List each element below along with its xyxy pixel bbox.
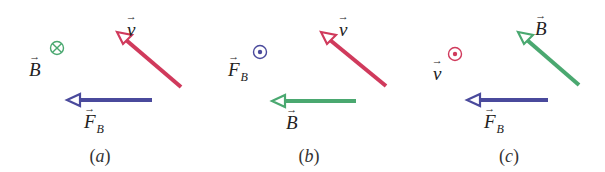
vector-arrow-icon: → (126, 11, 137, 22)
caption-letter: a (96, 146, 105, 166)
label-field-b: →B (286, 113, 298, 132)
caption-b: (b) (299, 147, 320, 165)
label-text: v (339, 19, 347, 40)
vector-arrow-icon: → (286, 104, 297, 115)
label-force-a: →FB (84, 112, 104, 135)
label-text: v (127, 19, 135, 40)
label-subscript: B (97, 122, 104, 136)
label-text: F (484, 111, 496, 132)
label-force-b: →FB (228, 60, 248, 83)
label-text: B (29, 59, 41, 80)
velocity-arrow (117, 32, 181, 87)
vector-arrow-icon: → (484, 103, 495, 114)
paren: ) (314, 146, 320, 166)
force-arrow (467, 94, 548, 106)
label-velocity-b: →v (339, 20, 347, 39)
vector-arrow-icon: → (432, 55, 443, 66)
vector-arrow-icon: → (29, 51, 40, 62)
panel-b (254, 32, 387, 107)
caption-letter: b (305, 146, 314, 166)
label-subscript: B (497, 122, 504, 136)
panel-c (449, 32, 580, 106)
vector-arrow-icon: → (84, 103, 95, 114)
vector-arrow-icon: → (228, 51, 239, 62)
velocity-arrow (321, 32, 386, 86)
vector-arrow-icon: → (535, 10, 546, 21)
label-velocity-c: →v (433, 64, 441, 83)
label-force-c: →FB (484, 112, 504, 135)
paren: ) (105, 146, 111, 166)
caption-a: (a) (90, 147, 111, 165)
label-velocity-a: →v (127, 20, 135, 39)
field-into-page-icon (51, 42, 64, 55)
field-arrow-diagonal (518, 32, 579, 85)
caption-c: (c) (499, 147, 519, 165)
label-field-a: →B (29, 60, 41, 79)
label-subscript: B (241, 70, 248, 84)
paren: ) (513, 146, 519, 166)
label-text: B (286, 112, 298, 133)
label-text: v (433, 63, 441, 84)
caption-letter: c (505, 146, 513, 166)
force-arrow (67, 94, 152, 106)
force-out-of-page-icon (254, 46, 267, 59)
label-field-c: →B (535, 19, 547, 38)
label-text: F (84, 111, 96, 132)
label-text: B (535, 18, 547, 39)
velocity-out-of-page-icon (449, 48, 462, 61)
panel-a (51, 32, 182, 106)
field-arrow (272, 95, 356, 107)
vector-arrow-icon: → (338, 11, 349, 22)
label-text: F (228, 59, 240, 80)
